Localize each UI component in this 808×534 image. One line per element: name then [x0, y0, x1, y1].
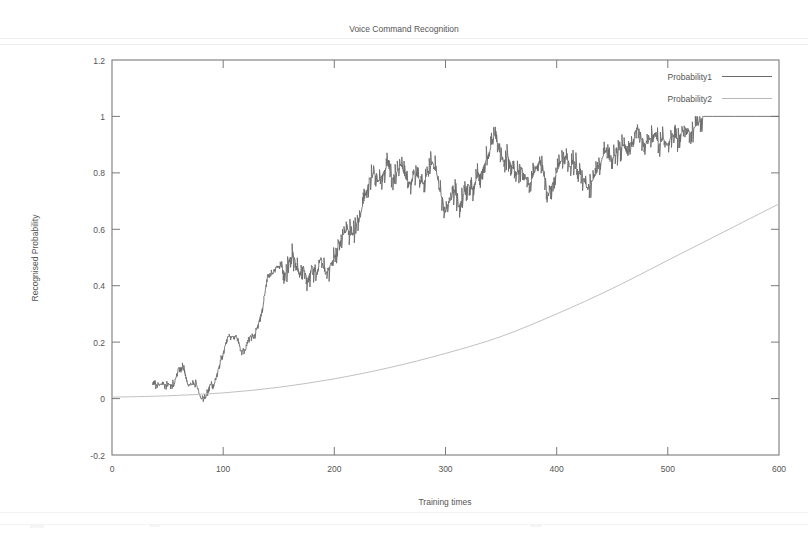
y-tick-label: 0.8: [93, 168, 105, 178]
y-tick-label: 1.2: [93, 56, 105, 66]
plot-frame: [112, 60, 779, 455]
y-tick-0.4: 0.4: [93, 281, 779, 291]
x-axis-title: Training times: [418, 497, 471, 507]
y-tick-label: -0.2: [90, 451, 105, 461]
x-tick-label: 200: [327, 464, 341, 474]
x-axis-ticks: 0 100 200 300 400: [110, 60, 787, 474]
y-tick--0.2: -0.2: [90, 451, 105, 461]
x-tick-200: 200: [327, 60, 341, 474]
y-tick-0.2: 0.2: [93, 338, 779, 348]
chart-legend: Probability1 Probability2: [668, 72, 772, 104]
x-tick-label: 0: [110, 464, 115, 474]
y-tick-label: 1: [100, 112, 105, 122]
series-line-probability1: [152, 116, 779, 401]
x-tick-300: 300: [438, 60, 452, 474]
x-tick-label: 400: [550, 464, 564, 474]
y-tick-0.6: 0.6: [93, 225, 779, 235]
x-tick-500: 500: [661, 60, 675, 474]
legend-label-probability2: Probability2: [668, 94, 713, 104]
chart-title: Voice Command Recognition: [349, 24, 459, 34]
x-tick-label: 600: [772, 464, 786, 474]
x-tick-0: 0: [110, 464, 115, 474]
x-tick-400: 400: [550, 60, 564, 474]
x-tick-100: 100: [216, 60, 230, 474]
y-tick-label: 0.4: [93, 281, 105, 291]
y-tick-1.2: 1.2: [93, 56, 105, 66]
y-tick-label: 0: [100, 394, 105, 404]
x-tick-label: 100: [216, 464, 230, 474]
y-tick-1: 1: [100, 112, 779, 122]
y-tick-label: 0.2: [93, 338, 105, 348]
chart-canvas: Voice Command Recognition 1.2 1 0.8 0.6: [0, 0, 808, 534]
x-tick-label: 300: [438, 464, 452, 474]
y-axis-ticks: 1.2 1 0.8 0.6 0.4: [90, 56, 779, 461]
y-axis-title: Recognised Probability: [30, 214, 40, 302]
series-line-probability2: [112, 204, 779, 397]
x-tick-600: 600: [772, 464, 786, 474]
y-tick-label: 0.6: [93, 225, 105, 235]
x-tick-label: 500: [661, 464, 675, 474]
chart-figure: Voice Command Recognition 1.2 1 0.8 0.6: [0, 0, 808, 534]
legend-label-probability1: Probability1: [668, 72, 713, 82]
